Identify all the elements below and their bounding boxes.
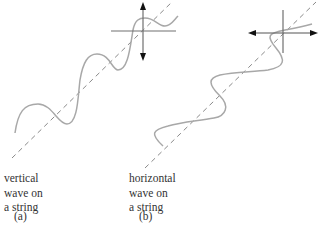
panel-b-label-line-1: horizontal bbox=[129, 171, 176, 186]
panel-a-label-line-2: wave on bbox=[4, 186, 43, 201]
horizontal-wave-curve bbox=[154, 24, 312, 146]
vertical-wave-curve bbox=[15, 16, 178, 133]
propagation-axis-dashed bbox=[145, 2, 316, 168]
panel-a-label-line-1: vertical bbox=[4, 171, 43, 186]
panel-b-caption: (b) bbox=[139, 210, 152, 222]
panel-b-label: horizontal wave on a string bbox=[129, 171, 176, 215]
panel-b-horizontal-wave bbox=[145, 2, 316, 168]
propagation-axis-dashed bbox=[12, 1, 173, 158]
panel-b-label-line-2: wave on bbox=[129, 186, 176, 201]
panel-a-caption: (a) bbox=[14, 210, 27, 222]
panel-a-vertical-wave bbox=[12, 1, 178, 158]
panel-a-label: vertical wave on a string bbox=[4, 171, 43, 215]
